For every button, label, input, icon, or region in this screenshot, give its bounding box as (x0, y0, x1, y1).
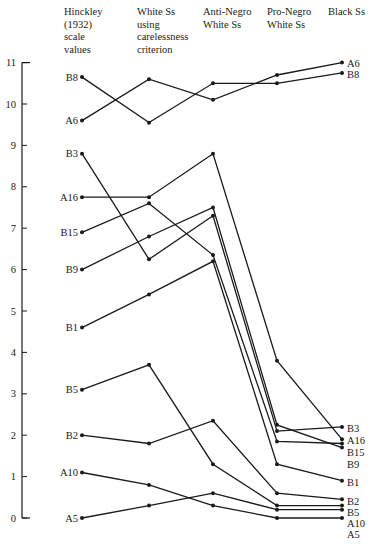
series-label-left: A6 (65, 115, 78, 126)
data-point (80, 268, 84, 272)
series-label-right: B9 (347, 459, 359, 470)
data-point (80, 516, 84, 520)
data-point (211, 253, 215, 257)
series-label-right: A16 (347, 435, 365, 446)
data-point (147, 234, 151, 238)
series-label-right: B5 (347, 507, 359, 518)
data-point (275, 491, 279, 495)
y-tick-label: 4 (11, 347, 17, 358)
series-label-left: B9 (66, 264, 78, 275)
series-label-left: A16 (60, 192, 78, 203)
data-point (211, 81, 215, 85)
y-tick-label: 2 (11, 430, 16, 441)
series-label-left: B3 (66, 148, 78, 159)
line-chart: 01234567891011A6A6B8B8B3B3A16A16B15B15B9… (0, 0, 373, 544)
data-point (275, 423, 279, 427)
data-point (211, 504, 215, 508)
series-label-right: B2 (347, 496, 359, 507)
data-point (147, 292, 151, 296)
series-line-b5 (82, 365, 342, 506)
data-point (80, 152, 84, 156)
y-tick-label: 3 (11, 388, 16, 399)
data-point (80, 195, 84, 199)
data-point (211, 206, 215, 210)
series-label-left: B15 (60, 227, 78, 238)
series-label-right: B8 (347, 69, 359, 80)
data-point (211, 259, 215, 263)
data-point (80, 433, 84, 437)
series-line-a6 (82, 63, 342, 121)
series-line-b8 (82, 73, 342, 123)
series-label-right: B1 (347, 477, 359, 488)
series-label-left: B2 (66, 430, 78, 441)
data-point (147, 201, 151, 205)
series-line-b9 (82, 208, 342, 448)
data-point (275, 439, 279, 443)
data-point (340, 437, 344, 441)
series-label-right: A10 (347, 518, 365, 529)
data-point (147, 77, 151, 81)
data-point (147, 121, 151, 125)
data-point (80, 75, 84, 79)
data-point (211, 462, 215, 466)
y-tick-label: 9 (11, 140, 16, 151)
data-point (80, 230, 84, 234)
data-point (275, 81, 279, 85)
series-label-right: A5 (347, 529, 360, 540)
data-point (211, 98, 215, 102)
data-point (340, 71, 344, 75)
data-point (275, 359, 279, 363)
data-point (147, 363, 151, 367)
data-point (80, 326, 84, 330)
data-point (211, 419, 215, 423)
data-point (275, 462, 279, 466)
y-tick-label: 0 (11, 513, 16, 524)
series-line-a16 (82, 154, 342, 440)
series-label-right: B3 (347, 423, 359, 434)
y-tick-label: 7 (11, 223, 16, 234)
data-point (340, 479, 344, 483)
data-point (340, 508, 344, 512)
data-point (211, 491, 215, 495)
series-label-left: B1 (66, 322, 78, 333)
data-point (340, 504, 344, 508)
y-tick-label: 6 (11, 264, 16, 275)
series-line-b3 (82, 154, 342, 431)
data-point (340, 61, 344, 65)
data-point (147, 441, 151, 445)
series-label-right: A6 (347, 58, 360, 69)
data-point (275, 508, 279, 512)
data-point (340, 441, 344, 445)
data-point (147, 195, 151, 199)
series-label-left: A5 (65, 513, 78, 524)
data-point (275, 504, 279, 508)
series-label-left: B8 (66, 72, 78, 83)
data-point (275, 516, 279, 520)
y-tick-label: 1 (11, 471, 16, 482)
data-point (147, 483, 151, 487)
series-label-left: A10 (60, 467, 78, 478)
data-point (147, 504, 151, 508)
series-line-b2 (82, 421, 342, 500)
series-label-right: B15 (347, 447, 365, 458)
y-tick-label: 8 (11, 181, 16, 192)
data-point (211, 152, 215, 156)
series-line-b1 (82, 261, 342, 480)
data-point (80, 388, 84, 392)
data-point (275, 73, 279, 77)
y-tick-label: 11 (6, 57, 16, 68)
series-line-b15 (82, 203, 342, 443)
data-point (80, 470, 84, 474)
data-point (147, 257, 151, 261)
y-tick-label: 10 (6, 99, 17, 110)
data-point (340, 446, 344, 450)
series-label-left: B5 (66, 384, 78, 395)
data-point (340, 516, 344, 520)
data-point (80, 119, 84, 123)
data-point (340, 425, 344, 429)
data-point (340, 497, 344, 501)
data-point (275, 429, 279, 433)
y-tick-label: 5 (11, 306, 16, 317)
